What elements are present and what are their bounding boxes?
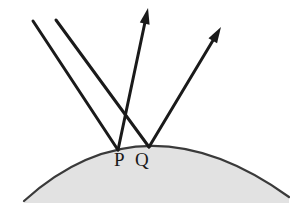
reflected-ray-1-arrowhead-icon [140, 8, 150, 25]
point-label-q: Q [135, 149, 149, 170]
reflected-ray-2-arrowhead-icon [208, 27, 221, 43]
ray-group [33, 8, 221, 150]
point-label-p: P [114, 149, 125, 170]
physics-reflection-figure: P Q [0, 0, 290, 215]
figure-canvas: P Q [0, 0, 290, 215]
reflected-ray-2 [149, 38, 214, 147]
curved-surface-fill [24, 146, 289, 203]
reflected-ray-1 [118, 21, 145, 150]
